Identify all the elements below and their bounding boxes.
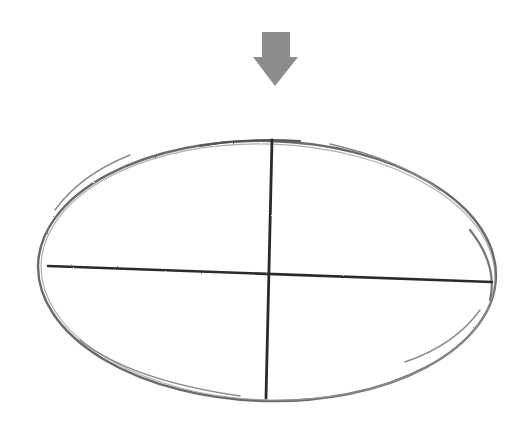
vertical-axis — [266, 140, 272, 398]
sketch-canvas — [0, 0, 532, 436]
arrow-down-icon — [253, 32, 298, 86]
